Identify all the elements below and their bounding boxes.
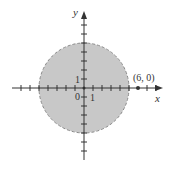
- coordinate-graph: y x 0 1 1 (6, 0): [0, 0, 172, 172]
- x-axis-label: x: [154, 92, 160, 104]
- origin-label: 0: [75, 91, 80, 102]
- y-tick-label: 1: [75, 74, 80, 85]
- point-6-0: [136, 86, 140, 90]
- x-tick-label: 1: [90, 92, 95, 103]
- origin-dot: [83, 87, 86, 90]
- point-label: (6, 0): [133, 72, 155, 84]
- y-axis-arrow-icon: [81, 11, 87, 19]
- y-axis-label: y: [72, 6, 78, 18]
